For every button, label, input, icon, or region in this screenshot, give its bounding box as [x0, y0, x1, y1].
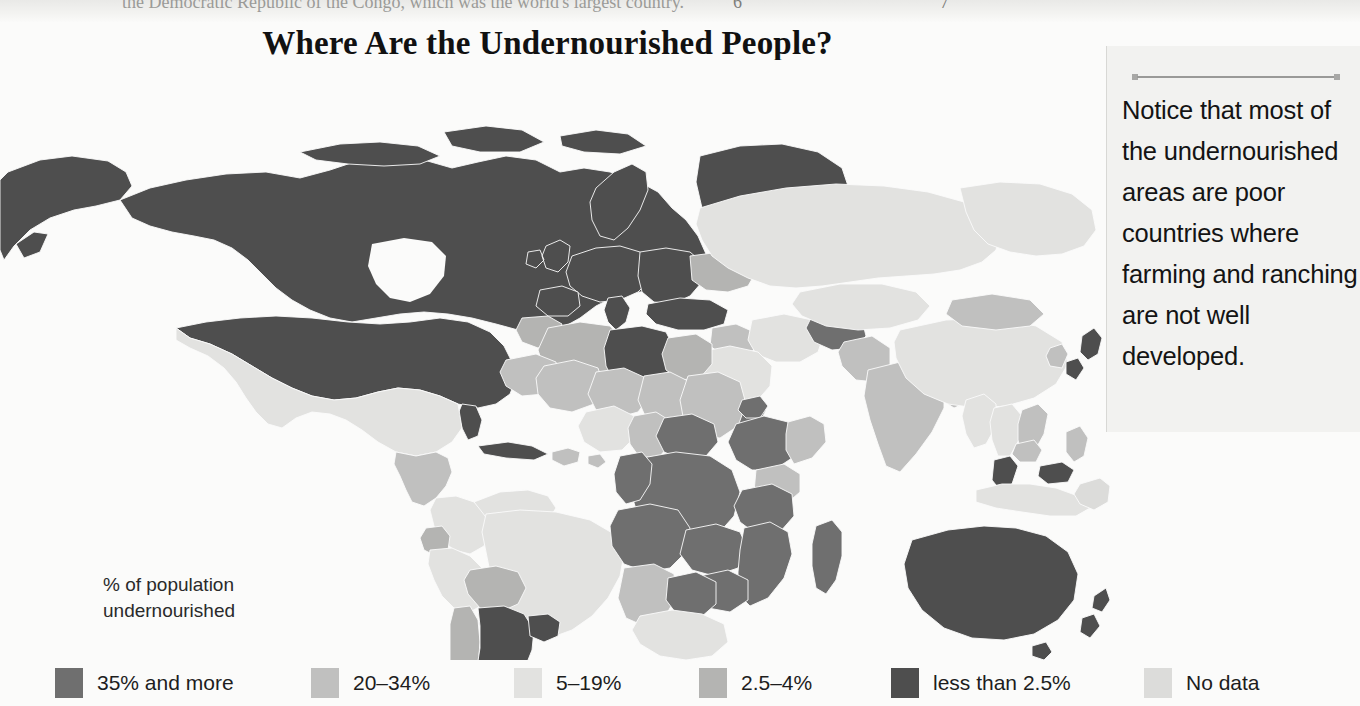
legend-swatch [891, 668, 919, 698]
legend-caption: % of population undernourished [103, 572, 235, 624]
legend-swatch [1144, 668, 1172, 698]
side-note-text: Notice that most of the undernourished a… [1122, 90, 1360, 377]
legend-item: 35% and more [55, 668, 234, 698]
legend-caption-line2: undernourished [103, 598, 235, 624]
legend-label: 35% and more [97, 671, 234, 695]
rule-bar [1137, 76, 1335, 78]
region-zambia [680, 524, 748, 576]
legend-swatch [699, 668, 727, 698]
region-iberia [536, 286, 580, 316]
page-running-head: the Democratic Republic of the Congo, wh… [0, 0, 1360, 22]
legend-label: No data [1186, 671, 1260, 695]
running-head-text: the Democratic Republic of the Congo, wh… [122, 0, 684, 13]
page-number-left: 6 [733, 0, 742, 13]
legend-label: 2.5–4% [741, 671, 812, 695]
legend-swatch [514, 668, 542, 698]
page-number-right: 7 [940, 0, 949, 13]
legend-item: less than 2.5% [891, 668, 1071, 698]
legend-item: 2.5–4% [699, 668, 812, 698]
horizontal-rule-icon [1132, 74, 1340, 79]
region-argentina [470, 606, 534, 660]
rule-cap-right [1334, 74, 1340, 80]
legend-swatch [311, 668, 339, 698]
world-map: .c35{fill:#6f6f6f} .c20{fill:#c0c0bf} .c… [0, 60, 1110, 660]
legend-swatch [55, 668, 83, 698]
legend-label: 20–34% [353, 671, 430, 695]
legend-item: 20–34% [311, 668, 430, 698]
legend-label: less than 2.5% [933, 671, 1071, 695]
legend-caption-line1: % of population [103, 572, 235, 598]
page-title: Where Are the Undernourished People? [0, 25, 1095, 62]
legend-label: 5–19% [556, 671, 621, 695]
world-map-svg: .c35{fill:#6f6f6f} .c20{fill:#c0c0bf} .c… [0, 60, 1110, 660]
legend-item: No data [1144, 668, 1260, 698]
map-legend: 35% and more20–34%5–19%2.5–4%less than 2… [0, 668, 1360, 706]
legend-item: 5–19% [514, 668, 621, 698]
